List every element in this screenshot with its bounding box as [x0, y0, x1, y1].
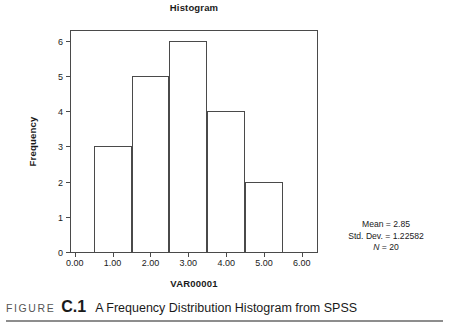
y-axis-title-label: Frequency	[28, 117, 39, 167]
stat-sample-size: N = 20	[330, 242, 442, 254]
x-axis-tick-label: 5.00	[255, 258, 273, 268]
y-axis-tick-label: 1	[58, 213, 63, 223]
histogram-bar	[94, 146, 132, 252]
histogram-bar	[132, 76, 170, 252]
y-axis-tick: 4	[66, 111, 71, 112]
y-axis-tick-label: 6	[58, 37, 63, 47]
x-axis-tick-label: 2.00	[142, 258, 160, 268]
y-axis-tick: 1	[66, 217, 71, 218]
histogram-bar	[207, 111, 245, 252]
y-axis-tick: 6	[66, 41, 71, 42]
y-axis-tick-label: 4	[58, 107, 63, 117]
x-axis-tick-label: 1.00	[104, 258, 122, 268]
x-axis-tick	[226, 252, 227, 257]
y-axis-title: Frequency	[26, 30, 40, 253]
statistics-annotation: Mean = 2.85 Std. Dev. = 1.22582 N = 20	[330, 219, 442, 254]
caption-description: A Frequency Distribution Histogram from …	[95, 301, 357, 315]
plot-area: 01234560.001.002.003.004.005.006.00	[70, 30, 318, 253]
x-axis-tick-label: 3.00	[180, 258, 198, 268]
caption-number: C.1	[61, 298, 86, 316]
histogram-bar	[169, 41, 207, 252]
y-axis-tick: 5	[66, 76, 71, 77]
caption-label: FIGURE	[6, 302, 55, 314]
y-axis-tick: 0	[66, 252, 71, 253]
x-axis-tick	[302, 252, 303, 257]
x-axis-tick	[75, 252, 76, 257]
plot-surface: 01234560.001.002.003.004.005.006.00	[71, 31, 317, 252]
histogram-bar	[245, 182, 283, 252]
figure-container: Histogram Frequency 01234560.001.002.003…	[0, 0, 449, 329]
y-axis-tick-label: 0	[58, 248, 63, 258]
y-axis-tick-label: 3	[58, 142, 63, 152]
x-axis-tick	[264, 252, 265, 257]
caption-divider	[6, 320, 443, 322]
stat-mean: Mean = 2.85	[330, 219, 442, 231]
x-axis-tick-label: 4.00	[217, 258, 235, 268]
chart-title: Histogram	[70, 2, 318, 13]
x-axis-tick	[113, 252, 114, 257]
stat-n-value: = 20	[379, 242, 398, 252]
figure-caption: FIGURE C.1 A Frequency Distribution Hist…	[6, 298, 443, 316]
x-axis-tick-label: 0.00	[66, 258, 84, 268]
y-axis-tick-label: 2	[58, 178, 63, 188]
x-axis-tick	[150, 252, 151, 257]
x-axis-tick-label: 6.00	[293, 258, 311, 268]
y-axis-tick: 3	[66, 146, 71, 147]
y-axis-tick-label: 5	[58, 72, 63, 82]
y-axis-tick: 2	[66, 182, 71, 183]
stat-stddev: Std. Dev. = 1.22582	[330, 231, 442, 243]
x-axis-title: VAR00001	[70, 278, 318, 289]
x-axis-tick	[188, 252, 189, 257]
